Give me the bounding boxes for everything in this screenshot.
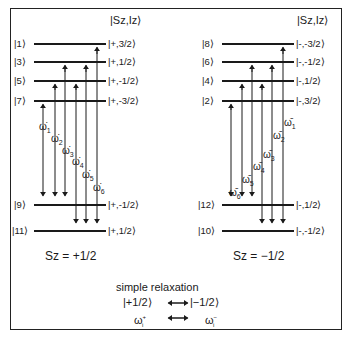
level-index: |12⟩ [198,200,215,210]
level-state: |-,-1/2⟩ [296,57,325,67]
transition-label-w5: ω̇5 [82,170,94,184]
legend-omega-plus: ω+i [134,312,143,330]
level-index: |9⟩ [14,200,26,210]
right-spin-label: Sz = −1/2 [233,251,284,261]
transition-label-w6-minus: ω̄6 [229,188,241,202]
level-state: |+,-1/2⟩ [108,76,139,86]
legend-arrows [168,303,188,318]
level-state: |-,1/2⟩ [296,200,321,210]
level-state: |+,1/2⟩ [108,57,136,67]
level-state: |-,3/2⟩ [296,96,321,106]
level-index: |8⟩ [202,39,214,49]
transition-label-w5-minus: ω̄5 [242,175,254,189]
level-state: |-,1/2⟩ [296,76,321,86]
energy-level-diagram [0,0,355,345]
transition-label-w1: ω̇1 [39,122,51,136]
level-state: |-,-1/2⟩ [296,226,325,236]
left-levels [34,44,106,231]
level-index: |1⟩ [14,39,26,49]
legend-omega-minus: ω−i [205,312,214,330]
transition-label-w4-minus: ω̄4 [253,162,265,176]
level-index: |10⟩ [198,226,215,236]
level-state: |+,-3/2⟩ [108,96,139,106]
transition-label-w2-minus: ω̄2 [273,131,285,145]
left-spin-label: Sz = +1/2 [45,251,96,261]
level-state: |+,-1/2⟩ [108,200,139,210]
level-index: |11⟩ [12,226,28,236]
right-header: |Sz,Iz⟩ [297,15,328,25]
legend-title: simple relaxation [116,282,199,292]
level-index: |7⟩ [14,96,26,106]
level-index: |3⟩ [14,57,26,67]
left-header: |Sz,Iz⟩ [110,15,141,25]
transition-label-w1-minus: ω̄1 [284,118,296,132]
level-index: |5⟩ [14,76,26,86]
transition-label-w6: ω̇6 [93,183,105,197]
level-state: |-,-3/2⟩ [296,39,325,49]
transition-label-w2: ω̇2 [51,134,63,148]
level-index: |6⟩ [202,57,214,67]
transition-label-w3-minus: ω̄3 [263,150,275,164]
legend-plus-state: |+1/2⟩ [123,297,152,307]
level-state: |+,1/2⟩ [108,226,136,236]
level-index: |4⟩ [202,76,214,86]
level-index: |2⟩ [202,96,214,106]
legend-minus-state: |−1/2⟩ [190,297,219,307]
level-state: |+,3/2⟩ [108,39,136,49]
